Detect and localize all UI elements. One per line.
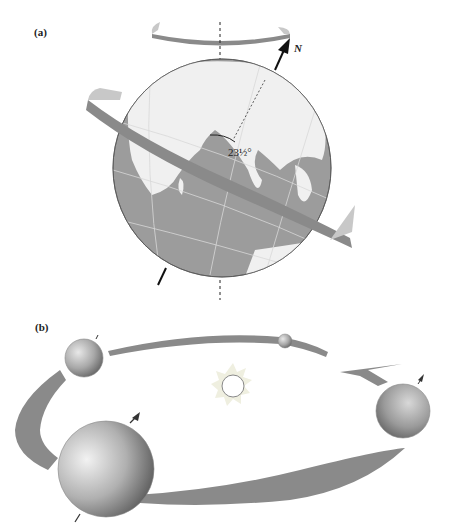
orbit-band-top: [108, 335, 328, 357]
diagram-canvas: [0, 0, 449, 531]
rotation-ring-icon: [152, 22, 290, 46]
north-arrow-icon: [278, 38, 290, 54]
orbit-band-left: [15, 370, 66, 470]
panel-a-label: (a): [34, 26, 47, 38]
earth-position-front: [58, 412, 154, 522]
panel-b: [15, 334, 430, 522]
panel-b-label: (b): [35, 321, 48, 333]
north-axis-label: N: [294, 42, 302, 54]
earth-position-left: [65, 335, 103, 377]
orbit-direction-arrow-icon: [340, 364, 402, 386]
tilt-angle-label: 23½°: [228, 146, 252, 158]
earth-position-back: [278, 334, 292, 348]
earth-globe: [113, 59, 331, 290]
earth-position-right: [376, 374, 430, 438]
orbit-band-bottom: [135, 448, 405, 505]
axis-arrow-icon: [418, 374, 424, 382]
panel-a: [86, 22, 355, 300]
sun-icon: [211, 363, 252, 406]
